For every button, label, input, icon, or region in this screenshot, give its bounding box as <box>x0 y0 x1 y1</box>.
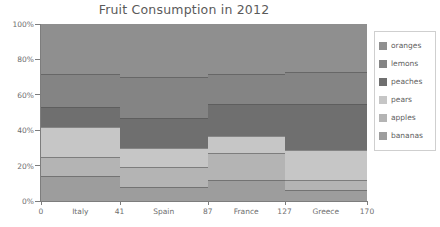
y-tick-label: 100% <box>0 20 34 29</box>
legend-swatch-icon <box>379 78 387 86</box>
y-axis-line <box>40 24 41 202</box>
x-tick-mark <box>285 201 286 205</box>
segment-italy-peaches <box>41 107 120 126</box>
segment-greece-pears <box>285 150 367 180</box>
legend-item-apples[interactable]: apples <box>379 109 432 127</box>
y-tick-label: 0% <box>0 197 34 206</box>
x-tick-mark <box>120 201 121 205</box>
x-axis-line <box>41 201 367 202</box>
x-tick-label: 127 <box>277 207 291 216</box>
segment-france-apples <box>208 153 285 180</box>
legend-item-label: lemons <box>391 60 418 68</box>
x-tick-mark <box>367 201 368 205</box>
legend-item-label: peaches <box>391 78 422 86</box>
x-tick-mark <box>208 201 209 205</box>
y-tick-label: 80% <box>0 55 34 64</box>
segment-italy-pears <box>41 127 120 157</box>
legend-item-label: apples <box>391 114 416 122</box>
segment-france-bananas <box>208 180 285 201</box>
segment-france-oranges <box>208 24 285 74</box>
y-tick-mark <box>35 59 40 60</box>
column-france <box>208 24 285 201</box>
column-spain <box>120 24 208 201</box>
x-tick-label: 41 <box>115 207 125 216</box>
legend-item-label: pears <box>391 96 412 104</box>
legend: orangeslemonspeachespearsapplesbananas <box>374 31 436 151</box>
segment-greece-lemons <box>285 72 367 104</box>
segment-greece-oranges <box>285 24 367 72</box>
legend-item-oranges[interactable]: oranges <box>379 37 432 55</box>
y-tick-label: 40% <box>0 126 34 135</box>
y-tick-label: 20% <box>0 162 34 171</box>
legend-swatch-icon <box>379 114 387 122</box>
legend-item-label: bananas <box>391 132 423 140</box>
plot-wrapper: 0%20%40%60%80%100% 04187127170ItalySpain… <box>0 0 368 227</box>
segment-spain-lemons <box>120 77 208 118</box>
x-tick-mark <box>41 201 42 205</box>
column-italy <box>41 24 120 201</box>
segment-italy-oranges <box>41 24 120 74</box>
segment-greece-peaches <box>285 104 367 150</box>
segment-spain-peaches <box>120 118 208 148</box>
segment-spain-pears <box>120 148 208 167</box>
x-tick-label: 87 <box>203 207 213 216</box>
column-greece <box>285 24 367 201</box>
y-tick-mark <box>35 24 40 25</box>
x-tick-label: 0 <box>39 207 44 216</box>
segment-spain-oranges <box>120 24 208 77</box>
x-category-label-greece: Greece <box>312 207 339 216</box>
legend-swatch-icon <box>379 60 387 68</box>
segment-greece-apples <box>285 180 367 191</box>
segment-spain-bananas <box>120 187 208 201</box>
segment-italy-lemons <box>41 74 120 108</box>
x-category-label-spain: Spain <box>153 207 174 216</box>
segment-greece-bananas <box>285 190 367 201</box>
segment-france-pears <box>208 136 285 154</box>
y-tick-mark <box>35 165 40 166</box>
legend-swatch-icon <box>379 132 387 140</box>
y-tick-mark <box>35 201 40 202</box>
y-tick-mark <box>35 130 40 131</box>
y-tick-label: 60% <box>0 91 34 100</box>
legend-swatch-icon <box>379 42 387 50</box>
segment-france-lemons <box>208 74 285 104</box>
segment-spain-apples <box>120 167 208 186</box>
legend-item-label: oranges <box>391 42 421 50</box>
legend-swatch-icon <box>379 96 387 104</box>
segment-italy-apples <box>41 157 120 176</box>
chart-root: Fruit Consumption in 2012 0%20%40%60%80%… <box>0 0 440 227</box>
x-tick-label: 170 <box>360 207 374 216</box>
segment-italy-bananas <box>41 176 120 201</box>
y-tick-mark <box>35 94 40 95</box>
segment-france-peaches <box>208 104 285 136</box>
x-category-label-italy: Italy <box>72 207 88 216</box>
legend-item-lemons[interactable]: lemons <box>379 55 432 73</box>
legend-item-bananas[interactable]: bananas <box>379 127 432 145</box>
legend-item-pears[interactable]: pears <box>379 91 432 109</box>
legend-item-peaches[interactable]: peaches <box>379 73 432 91</box>
x-category-label-france: France <box>234 207 259 216</box>
plot-area <box>41 24 367 201</box>
